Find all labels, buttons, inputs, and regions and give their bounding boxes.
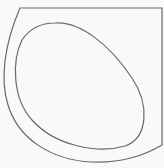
outer-rim-outline bbox=[4, 8, 162, 162]
inner-basin-outline bbox=[15, 23, 144, 149]
bathtub-diagram bbox=[0, 0, 164, 168]
bathtub-drawing bbox=[0, 0, 164, 168]
